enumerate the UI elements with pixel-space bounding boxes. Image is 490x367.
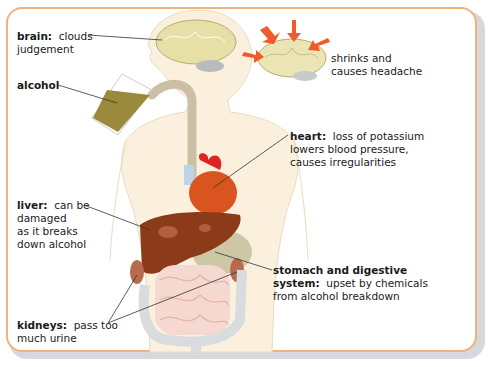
label-stomach: stomach and digestive system: upset by c… <box>273 264 428 303</box>
label-heart: heart: loss of potassium lowers blood pr… <box>290 130 424 169</box>
label-shrinks: shrinks and causes headache <box>331 52 422 78</box>
label-brain: brain: clouds judgement <box>17 30 93 56</box>
kidney-left <box>130 260 144 284</box>
label-kidneys: kidneys: pass too much urine <box>17 319 118 345</box>
label-alcohol: alcohol <box>17 79 59 92</box>
label-liver: liver: can be damaged as it breaks down … <box>17 199 90 251</box>
